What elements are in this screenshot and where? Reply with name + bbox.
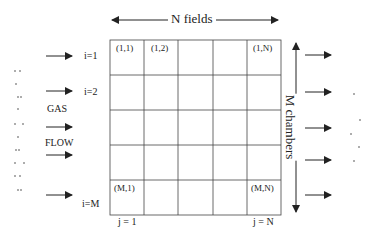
- col-label-last: j = N: [253, 216, 274, 227]
- col-label-first: j = 1: [118, 216, 136, 227]
- row-label-last: i=M: [82, 198, 99, 209]
- row-label-first: i=1: [84, 50, 97, 61]
- gas-label: GAS: [47, 103, 67, 114]
- cell-label-m-n: (M,N): [251, 183, 274, 193]
- row-label-second: i=2: [84, 86, 97, 97]
- gas-particles-left: [14, 70, 25, 191]
- outlet-arrows: [305, 55, 331, 195]
- flow-label: FLOW: [45, 137, 73, 148]
- n-fields-label: N fields: [170, 11, 214, 27]
- inlet-arrows: [46, 56, 72, 195]
- m-chambers-label: M chambers: [282, 94, 298, 161]
- cell-label-m-1: (M,1): [114, 183, 135, 193]
- gas-particles-right: [350, 93, 361, 162]
- cell-label-1-1: (1,1): [116, 43, 133, 53]
- diagram-canvas: [0, 0, 375, 240]
- cell-label-1-n: (1,N): [253, 43, 272, 53]
- cell-label-1-2: (1,2): [151, 43, 168, 53]
